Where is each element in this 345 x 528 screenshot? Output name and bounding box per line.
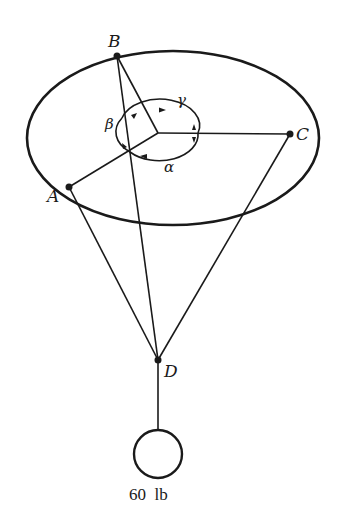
force-diagram: B C A D β γ α 60 lb — [0, 0, 345, 528]
weight-circle — [134, 430, 182, 478]
label-b: B — [107, 31, 121, 51]
label-d: D — [163, 361, 178, 381]
ring-ellipse — [27, 51, 319, 225]
label-c: C — [296, 124, 309, 144]
radial-lines — [69, 56, 290, 187]
angle-arcs — [116, 99, 200, 161]
weight-label: 60 lb — [129, 485, 168, 504]
cables — [69, 56, 290, 430]
label-beta: β — [104, 115, 114, 133]
label-alpha: α — [164, 158, 174, 176]
label-gamma: γ — [177, 91, 186, 109]
label-a: A — [45, 186, 59, 206]
